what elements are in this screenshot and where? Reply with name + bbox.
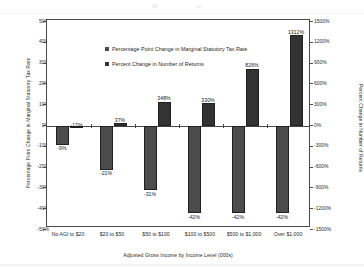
category-separator-tick	[135, 124, 136, 128]
category-separator-tick	[179, 124, 180, 128]
y-tick-label-right: 1200%	[314, 39, 348, 44]
y-tick-mark-right	[310, 104, 313, 105]
bar-value-label-b: 37%	[106, 117, 135, 123]
bar-value-label-b: -17%	[71, 122, 98, 128]
plot-area: -9%-17%-21%37%-31%348%-42%330%-42%826%-4…	[46, 19, 310, 227]
bar-value-label-b: 348%	[150, 95, 179, 101]
y-tick-mark-right	[310, 125, 313, 126]
y-tick-mark-right	[310, 63, 313, 64]
bar-series-b	[158, 102, 171, 126]
y-tick-label-right: 0%	[314, 123, 348, 128]
bar-series-a	[100, 126, 113, 170]
legend-item-series-b: Percent Change in Number of Returns	[105, 61, 247, 67]
y-axis-right-title: Percent Change in Number of Returns	[358, 48, 364, 208]
y-tick-label-right: 1500%	[314, 19, 348, 24]
x-axis-category-label: Over $1,000	[260, 231, 316, 237]
bar-value-label-a: -9%	[49, 145, 76, 151]
y-tick-label-right: -1500%	[314, 227, 348, 232]
x-axis-title: Adjusted Gross Income by Income Level (0…	[46, 252, 310, 258]
bar-value-label-a: -42%	[269, 214, 296, 220]
legend-label: Percentage Point Change in Marginal Stat…	[112, 46, 247, 52]
bar-series-a	[232, 126, 245, 213]
bar-value-label-a: -31%	[137, 191, 164, 197]
y-tick-mark-right	[310, 187, 313, 188]
bar-value-label-a: -21%	[93, 170, 120, 176]
y-tick-label-right: -1200%	[314, 206, 348, 211]
legend-swatch-icon	[105, 62, 109, 66]
y-tick-mark-left	[43, 229, 46, 230]
y-tick-mark-right	[310, 229, 313, 230]
bar-value-label-a: -42%	[225, 214, 252, 220]
y-tick-label-right: 300%	[314, 102, 348, 107]
bar-series-b	[202, 103, 215, 126]
y-tick-mark-right	[310, 21, 313, 22]
chart-container: Percentage Point Change in Marginal Stat…	[0, 0, 364, 267]
y-tick-mark-right	[310, 42, 313, 43]
scan-artifact	[0, 264, 364, 266]
bar-series-a	[56, 126, 69, 145]
bar-series-b	[290, 35, 303, 126]
y-tick-mark-right	[310, 146, 313, 147]
legend-label: Percent Change in Number of Returns	[112, 61, 204, 67]
bar-value-label-a: -42%	[181, 214, 208, 220]
scan-artifact	[196, 5, 201, 8]
bar-value-label-b: 330%	[194, 97, 223, 103]
y-tick-label-right: 900%	[314, 60, 348, 65]
scan-artifact	[152, 4, 158, 8]
bar-series-b	[246, 69, 259, 126]
scan-artifact	[0, 13, 364, 14]
category-separator-tick	[267, 124, 268, 128]
y-tick-mark-right	[310, 167, 313, 168]
bar-series-a	[276, 126, 289, 213]
category-separator-tick	[223, 124, 224, 128]
y-tick-mark-right	[310, 83, 313, 84]
y-tick-mark-right	[310, 208, 313, 209]
bar-series-b	[114, 123, 127, 126]
y-tick-label-right: 600%	[314, 81, 348, 86]
legend: Percentage Point Change in Marginal Stat…	[105, 46, 247, 76]
legend-item-series-a: Percentage Point Change in Marginal Stat…	[105, 46, 247, 52]
y-tick-label-right: -900%	[314, 185, 348, 190]
bar-value-label-b: 1312%	[282, 29, 311, 35]
y-tick-label-right: -300%	[314, 143, 348, 148]
legend-swatch-icon	[105, 47, 109, 51]
bar-series-a	[188, 126, 201, 213]
y-tick-label-right: -600%	[314, 164, 348, 169]
bar-series-a	[144, 126, 157, 190]
